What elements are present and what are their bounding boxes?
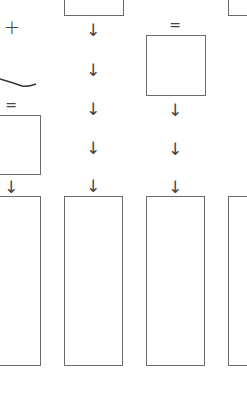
curve-connector [0, 0, 247, 401]
